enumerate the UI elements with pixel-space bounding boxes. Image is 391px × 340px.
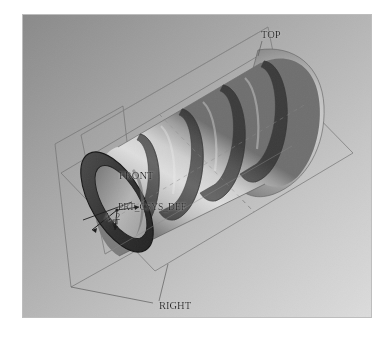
screenshot-canvas: TOP FRONT RIGHT PRT_CSYS_DEF A_2 — [0, 0, 391, 340]
cad-3d-viewport[interactable]: TOP FRONT RIGHT PRT_CSYS_DEF A_2 — [22, 14, 372, 318]
image-grain-overlay — [22, 14, 372, 318]
cad-scene[interactable]: TOP FRONT RIGHT PRT_CSYS_DEF A_2 — [22, 14, 372, 318]
